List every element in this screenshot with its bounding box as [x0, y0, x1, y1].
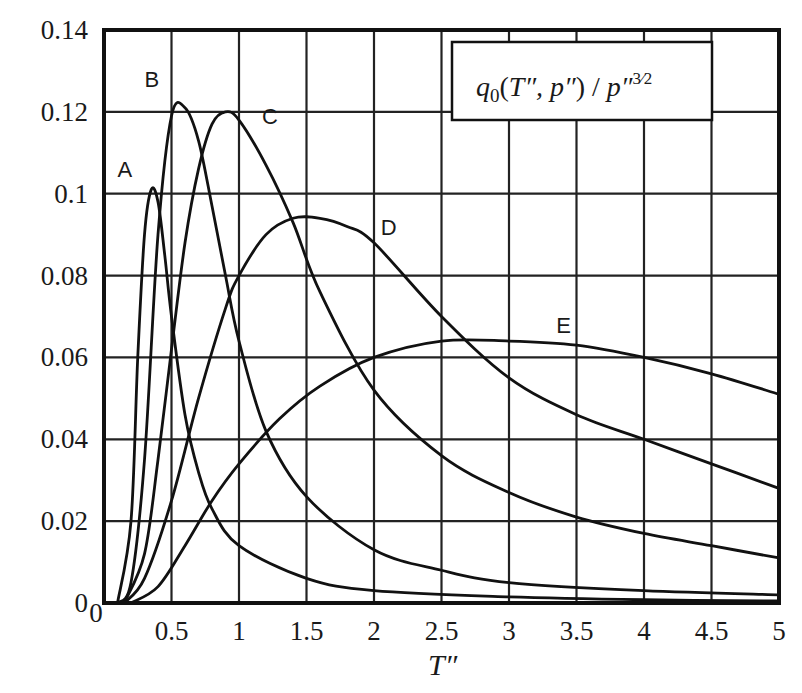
- x-tick-label: 2.5: [425, 616, 459, 646]
- data-curves: [118, 102, 780, 603]
- legend-box: q0(T″, p″) / p″3⁄2: [452, 42, 712, 120]
- x-tick-label: 1: [232, 616, 246, 646]
- x-tick-label: 4: [637, 616, 651, 646]
- x-tick-label: 0.5: [155, 616, 189, 646]
- x-tick-label: 2: [367, 616, 381, 646]
- y-tick-label: 0.14: [41, 15, 89, 45]
- y-tick-label: 0.02: [41, 506, 88, 536]
- y-tick-label: 0.08: [41, 261, 88, 291]
- x-tick-label: 0: [89, 598, 103, 628]
- chart: 00.020.040.060.080.10.120.14 00.511.522.…: [0, 0, 802, 693]
- y-tick-label: 0.06: [41, 342, 88, 372]
- legend-text: q0(T″, p″) / p″3⁄2: [476, 69, 652, 106]
- curve-b: [118, 102, 780, 603]
- x-tick-label: 3: [502, 616, 516, 646]
- y-tick-label: 0.12: [41, 97, 88, 127]
- curve-label-c: C: [262, 104, 278, 129]
- curve-e: [131, 340, 779, 603]
- curve-label-e: E: [556, 313, 571, 338]
- x-tick-label: 5: [772, 616, 786, 646]
- y-axis-ticks: 00.020.040.060.080.10.120.14: [41, 15, 89, 618]
- y-tick-label: 0.04: [41, 424, 89, 454]
- x-tick-label: 4.5: [695, 616, 729, 646]
- y-tick-label: 0: [75, 588, 89, 618]
- x-axis-ticks: 00.511.522.533.544.55: [89, 598, 786, 646]
- y-tick-label: 0.1: [54, 179, 88, 209]
- curve-label-b: B: [145, 67, 160, 92]
- curve-label-d: D: [381, 215, 397, 240]
- x-tick-label: 1.5: [290, 616, 324, 646]
- x-axis-label: T″: [428, 648, 458, 681]
- x-tick-label: 3.5: [560, 616, 594, 646]
- curve-label-a: A: [118, 157, 133, 182]
